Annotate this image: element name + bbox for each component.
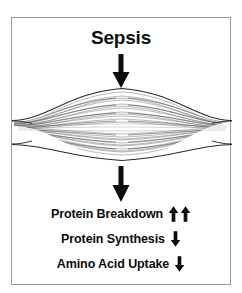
effect-arrows-protein-synthesis: [170, 231, 181, 247]
up-arrow-icon: [168, 206, 179, 222]
down-arrow-icon: [170, 231, 181, 247]
page-title: Sepsis: [12, 28, 230, 47]
effect-arrows-protein-breakdown: [168, 206, 191, 222]
figure-root: Sepsis: [0, 0, 242, 293]
effect-row-protein-synthesis: Protein Synthesis: [12, 226, 230, 251]
figure-stage: Sepsis: [12, 18, 230, 284]
figure-frame-border: Sepsis: [11, 17, 231, 285]
down-arrow-icon: [174, 256, 185, 272]
down-arrow-icon-muscle-to-effects: [108, 166, 134, 202]
effect-label-protein-synthesis: Protein Synthesis: [61, 232, 165, 246]
effect-arrows-amino-acid-uptake: [174, 256, 185, 272]
effects-list: Protein Breakdown Protein Synthesis: [12, 201, 230, 276]
skeletal-muscle-illustration: [12, 82, 230, 166]
effect-label-protein-breakdown: Protein Breakdown: [51, 207, 163, 221]
effect-row-amino-acid-uptake: Amino Acid Uptake: [12, 251, 230, 276]
up-arrow-icon: [180, 206, 191, 222]
effect-label-amino-acid-uptake: Amino Acid Uptake: [57, 257, 169, 271]
effect-row-protein-breakdown: Protein Breakdown: [12, 201, 230, 226]
